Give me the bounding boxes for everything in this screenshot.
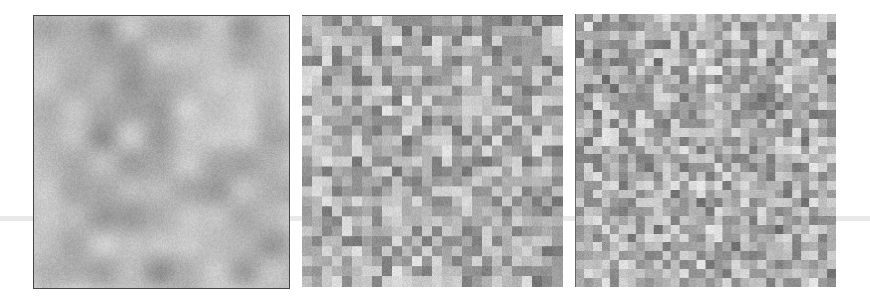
- noise-panel-smooth: [33, 15, 290, 289]
- noise-panel-fine: [575, 14, 836, 287]
- noise-panel-medium: [302, 15, 563, 287]
- noise-canvas-3: [576, 14, 836, 287]
- noise-canvas-1: [34, 16, 289, 288]
- noise-canvas-2: [302, 16, 563, 287]
